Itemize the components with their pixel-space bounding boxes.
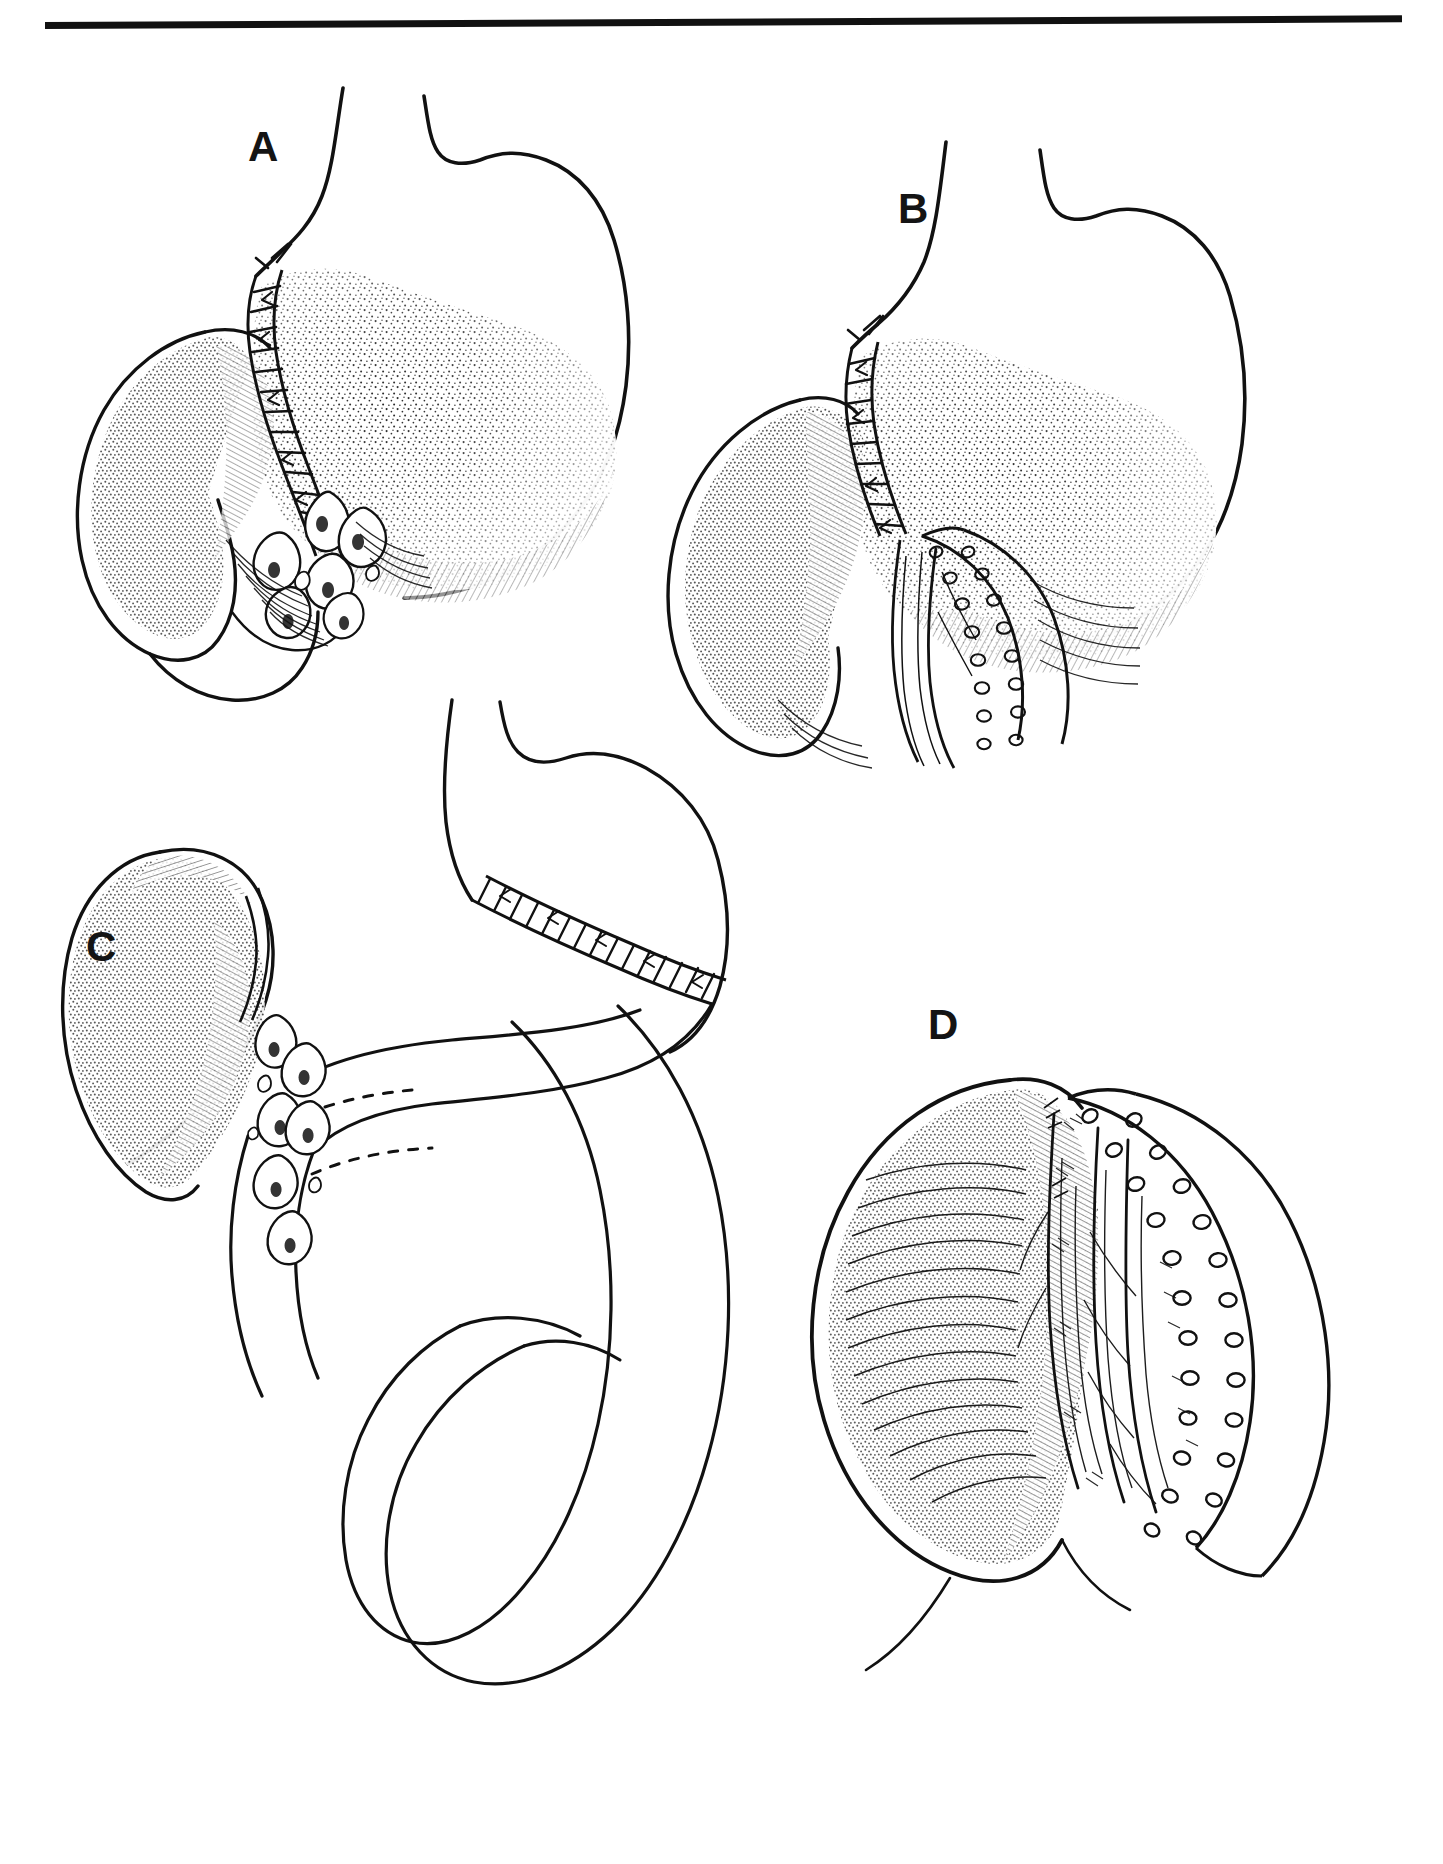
panel-d-duodenal-bulb <box>812 1079 1098 1581</box>
panel-c-group <box>63 849 330 1264</box>
figure-root: A B C D <box>0 0 1443 1864</box>
panel-c-droplet-group <box>248 1015 330 1264</box>
panel-b-stomach-shading <box>852 339 1216 673</box>
panel-label-d: D <box>928 1004 958 1046</box>
panel-c-duodenal-stump <box>63 849 273 1199</box>
panel-label-c: C <box>86 926 116 968</box>
panel-b-group <box>668 142 1245 768</box>
panel-label-a: A <box>248 126 278 168</box>
panel-d-group <box>812 1079 1329 1581</box>
center-staple-closure-line <box>472 876 726 1004</box>
panel-a-stomach-shading <box>252 269 616 603</box>
center-gastric-remnant-group <box>231 700 729 1684</box>
medical-illustration-canvas <box>0 0 1443 1864</box>
panel-a-duodenal-bulb <box>77 330 273 660</box>
panel-label-b: B <box>898 188 928 230</box>
panel-a-group <box>77 88 628 700</box>
panel-b-duodenal-bulb <box>668 398 864 756</box>
